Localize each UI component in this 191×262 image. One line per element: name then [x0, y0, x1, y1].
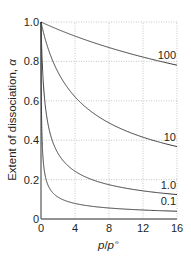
y-tick-label: 0.8	[24, 55, 39, 67]
y-tick-label: 0.4	[24, 134, 39, 146]
x-tick-label: 12	[137, 222, 149, 234]
x-tick-label: 4	[72, 222, 78, 234]
x-axis-title: p/p⦵	[97, 238, 120, 251]
dissociation-chart: 048121600.20.40.60.81.0 100101.00.1 Exte…	[0, 0, 191, 262]
y-tick-label: 0	[33, 213, 39, 225]
series-labels: 100101.00.1	[158, 49, 176, 207]
y-tick-label: 1.0	[24, 16, 39, 28]
series-label: 100	[158, 49, 176, 61]
x-tick-label: 16	[171, 222, 183, 234]
series-label: 10	[164, 131, 176, 143]
curve-K-0_1	[41, 22, 177, 211]
x-tick-label: 8	[106, 222, 112, 234]
data-curves	[41, 22, 177, 211]
series-label: 0.1	[161, 195, 176, 207]
y-tick-label: 0.6	[24, 95, 39, 107]
y-axis-title: Extent of dissociation, α	[6, 59, 18, 181]
series-label: 1.0	[161, 179, 176, 191]
y-tick-label: 0.2	[24, 174, 39, 186]
grid-lines	[41, 22, 177, 219]
